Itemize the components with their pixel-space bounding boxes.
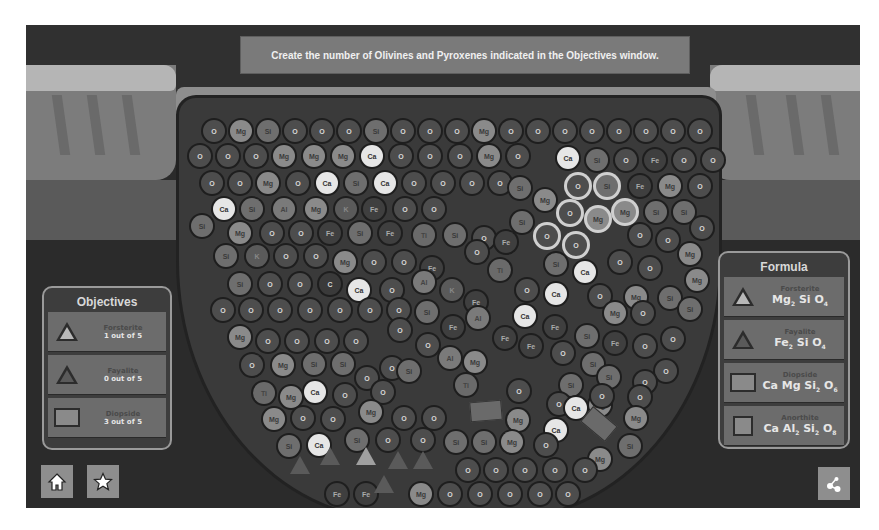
atom-o[interactable]: O (457, 459, 479, 481)
atom-mg[interactable]: Mg (464, 351, 486, 373)
atom-si[interactable]: Si (445, 431, 467, 453)
atom-o[interactable]: O (634, 335, 656, 357)
atom-o[interactable]: O (507, 145, 529, 167)
atom-mg[interactable]: Mg (410, 483, 432, 505)
atom-o[interactable]: O (261, 222, 283, 244)
atom-si[interactable]: Si (241, 198, 263, 220)
atom-mg[interactable]: Mg (229, 222, 251, 244)
atom-al[interactable]: Al (439, 347, 461, 369)
atom-o[interactable]: O (305, 245, 327, 267)
atom-si[interactable]: Si (659, 287, 681, 309)
atom-o[interactable]: O (632, 302, 654, 324)
atom-o[interactable]: O (514, 459, 536, 481)
atom-mg[interactable]: Mg (360, 401, 382, 423)
atom-ca[interactable]: Ca (374, 172, 396, 194)
atom-fe[interactable]: Fe (319, 222, 341, 244)
atom-fe[interactable]: Fe (494, 327, 516, 349)
atom-o[interactable]: O (286, 330, 308, 352)
atom-o[interactable]: O (554, 120, 576, 142)
atom-ca[interactable]: Ca (304, 381, 326, 403)
atom-mg[interactable]: Mg (273, 145, 295, 167)
atom-o[interactable]: O (544, 459, 566, 481)
atom-o[interactable]: O (536, 225, 558, 247)
atom-al[interactable]: Al (413, 271, 435, 293)
atom-si[interactable]: Si (560, 374, 582, 396)
atom-o[interactable]: O (394, 198, 416, 220)
atom-o[interactable]: O (423, 407, 445, 429)
atom-si[interactable]: Si (511, 211, 533, 233)
atom-o[interactable]: O (240, 299, 262, 321)
atom-mg[interactable]: Mg (332, 145, 354, 167)
atom-mg[interactable]: Mg (534, 189, 556, 211)
atom-o[interactable]: O (629, 386, 651, 408)
atom-si[interactable]: Si (576, 325, 598, 347)
atom-mg[interactable]: Mg (280, 386, 302, 408)
atom-o[interactable]: O (345, 330, 367, 352)
atom-o[interactable]: O (359, 299, 381, 321)
atom-o[interactable]: O (292, 407, 314, 429)
atom-ca[interactable]: Ca (514, 305, 536, 327)
atom-si[interactable]: Si (416, 301, 438, 323)
atom-si[interactable]: Si (673, 201, 695, 223)
atom-o[interactable]: O (412, 429, 434, 451)
atom-si[interactable]: Si (229, 273, 251, 295)
atom-o[interactable]: O (203, 120, 225, 142)
atom-mg[interactable]: Mg (625, 407, 647, 429)
atom-ca[interactable]: Ca (213, 198, 235, 220)
atom-fe[interactable]: Fe (326, 483, 348, 505)
atom-mg[interactable]: Mg (679, 243, 701, 265)
atom-al[interactable]: Al (273, 198, 295, 220)
atom-ca[interactable]: Ca (316, 172, 338, 194)
atom-o[interactable]: O (419, 145, 441, 167)
atom-o[interactable]: O (559, 202, 581, 224)
atom-ti[interactable]: Ti (413, 224, 435, 246)
atom-o[interactable]: O (567, 175, 589, 197)
atom-mg[interactable]: Mg (473, 120, 495, 142)
atom-o[interactable]: O (557, 483, 579, 505)
atom-mg[interactable]: Mg (229, 326, 251, 348)
atom-k[interactable]: K (246, 245, 268, 267)
atom-o[interactable]: O (635, 120, 657, 142)
atom-o[interactable]: O (469, 483, 491, 505)
atom-si[interactable]: Si (679, 298, 701, 320)
atom-o[interactable]: O (691, 217, 713, 239)
atom-o[interactable]: O (508, 380, 530, 402)
atom-o[interactable]: O (403, 172, 425, 194)
atom-si[interactable]: Si (278, 435, 300, 457)
atom-mg[interactable]: Mg (604, 302, 626, 324)
atom-o[interactable]: O (259, 273, 281, 295)
atom-ti[interactable]: Ti (253, 382, 275, 404)
atom-o[interactable]: O (485, 459, 507, 481)
atom-o[interactable]: O (432, 172, 454, 194)
atom-fe[interactable]: Fe (629, 175, 651, 197)
atom-o[interactable]: O (639, 257, 661, 279)
atom-fe[interactable]: Fe (363, 198, 385, 220)
atom-fe[interactable]: Fe (379, 222, 401, 244)
atom-o[interactable]: O (372, 381, 394, 403)
atom-si[interactable]: Si (349, 222, 371, 244)
atom-o[interactable]: O (702, 149, 724, 171)
atom-c[interactable]: C (319, 273, 341, 295)
atom-o[interactable]: O (417, 334, 439, 356)
atom-mg[interactable]: Mg (587, 208, 609, 230)
atom-fe[interactable]: Fe (604, 332, 626, 354)
atom-si[interactable]: Si (303, 353, 325, 375)
atom-si[interactable]: Si (586, 149, 608, 171)
atom-o[interactable]: O (269, 299, 291, 321)
atom-si[interactable]: Si (215, 245, 237, 267)
atom-si[interactable]: Si (645, 201, 667, 223)
atom-o[interactable]: O (461, 172, 483, 194)
atom-mg[interactable]: Mg (272, 354, 294, 376)
atom-o[interactable]: O (390, 145, 412, 167)
atom-si[interactable]: Si (509, 177, 531, 199)
atom-o[interactable]: O (673, 149, 695, 171)
favorite-button[interactable] (87, 465, 119, 498)
atom-o[interactable]: O (229, 172, 251, 194)
atom-mg[interactable]: Mg (334, 251, 356, 273)
atom-o[interactable]: O (311, 120, 333, 142)
atom-o[interactable]: O (284, 120, 306, 142)
atom-o[interactable]: O (591, 385, 613, 407)
atom-mg[interactable]: Mg (303, 145, 325, 167)
atom-fe[interactable]: Fe (495, 231, 517, 253)
atom-o[interactable]: O (322, 408, 344, 430)
